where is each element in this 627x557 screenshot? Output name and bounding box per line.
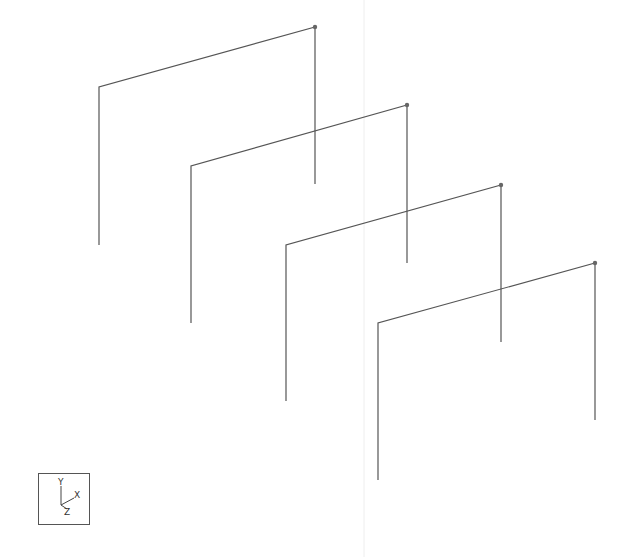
axis-x-label: X: [74, 491, 80, 500]
axis-triad: Y X Z: [38, 473, 90, 525]
node-marker[interactable]: [499, 183, 503, 187]
frames-group: [99, 25, 597, 480]
frame-2[interactable]: [191, 103, 409, 323]
frame-1[interactable]: [99, 25, 317, 245]
node-marker[interactable]: [593, 261, 597, 265]
model-viewport[interactable]: [0, 0, 627, 557]
frame-members[interactable]: [99, 27, 315, 245]
frame-members[interactable]: [378, 263, 595, 480]
axis-y-label: Y: [58, 478, 64, 487]
node-marker[interactable]: [313, 25, 317, 29]
node-marker[interactable]: [405, 103, 409, 107]
frame-members[interactable]: [286, 185, 501, 401]
frame-3[interactable]: [286, 183, 503, 401]
axis-z-label: Z: [64, 508, 70, 517]
frame-4[interactable]: [378, 261, 597, 480]
frame-members[interactable]: [191, 105, 407, 323]
